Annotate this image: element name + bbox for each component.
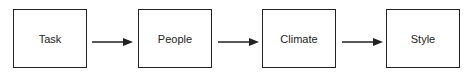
node-label: Task: [39, 33, 62, 45]
node-people: People: [138, 9, 212, 68]
arrow-right-icon: [341, 36, 384, 48]
arrow-right-icon: [91, 36, 134, 48]
node-label: People: [158, 33, 192, 45]
node-style: Style: [386, 9, 460, 68]
node-label: Climate: [280, 33, 317, 45]
node-climate: Climate: [262, 9, 336, 68]
node-task: Task: [13, 9, 87, 68]
node-label: Style: [411, 33, 435, 45]
arrow-right-icon: [217, 36, 260, 48]
